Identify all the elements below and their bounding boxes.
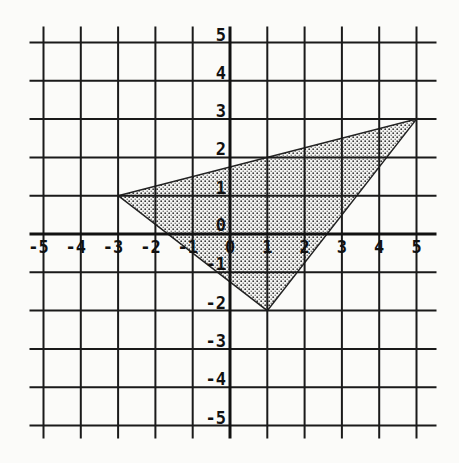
x-tick-label: 0 (225, 237, 235, 257)
x-tick-label: -1 (177, 237, 197, 257)
y-tick-label: -5 (206, 408, 226, 428)
y-tick-label: -1 (206, 254, 226, 274)
x-tick-label: 5 (411, 237, 421, 257)
x-tick-label: -2 (140, 237, 160, 257)
y-tick-label: 3 (216, 101, 226, 121)
y-tick-label: -4 (206, 369, 226, 389)
y-tick-label: -2 (206, 293, 226, 313)
y-tick-label: 0 (216, 215, 226, 235)
x-tick-label: -5 (28, 237, 48, 257)
axes (30, 27, 437, 439)
x-tick-label: 4 (374, 237, 384, 257)
coordinate-plane: -5-4-3-2-101234554321-1-2-3-4-50 (0, 0, 459, 463)
x-tick-label: -3 (103, 237, 123, 257)
x-tick-label: -4 (66, 237, 86, 257)
y-tick-label: -3 (206, 331, 226, 351)
x-tick-label: 1 (262, 237, 272, 257)
x-tick-label: 2 (299, 237, 309, 257)
y-tick-label: 2 (216, 139, 226, 159)
y-tick-label: 4 (216, 63, 226, 83)
y-tick-label: 1 (216, 178, 226, 198)
y-tick-label: 5 (216, 25, 226, 45)
tick-labels: -5-4-3-2-101234554321-1-2-3-4-50 (28, 25, 421, 428)
x-tick-label: 3 (337, 237, 347, 257)
